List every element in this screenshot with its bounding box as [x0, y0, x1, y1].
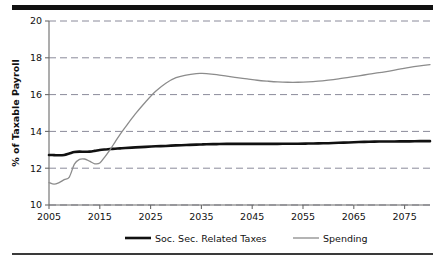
chart-legend: Soc. Sec. Related TaxesSpending: [125, 233, 368, 244]
x-tick-label: 2025: [139, 211, 163, 222]
x-tick-label: 2055: [291, 211, 315, 222]
line-chart-plot: 101214161820 200520152025203520452055206…: [0, 0, 443, 262]
x-tick-label: 2045: [240, 211, 264, 222]
y-tick-label: 18: [30, 52, 42, 63]
x-tick-label: 2005: [37, 211, 61, 222]
x-tick-label: 2065: [342, 211, 366, 222]
y-tick-label: 10: [30, 199, 42, 210]
y-axis-ticks-group: 101214161820: [30, 15, 49, 210]
y-tick-label: 16: [30, 89, 42, 100]
chart-figure: 101214161820 200520152025203520452055206…: [0, 0, 443, 262]
y-tick-label: 12: [30, 163, 42, 174]
gridlines-group: [49, 21, 430, 205]
y-tick-label: 20: [30, 15, 42, 26]
x-tick-label: 2015: [88, 211, 112, 222]
x-tick-label: 2075: [393, 211, 417, 222]
x-tick-label: 2035: [189, 211, 213, 222]
legend-label: Spending: [323, 233, 368, 244]
y-tick-label: 14: [30, 126, 42, 137]
legend-label: Soc. Sec. Related Taxes: [155, 233, 267, 244]
data-series-group: [49, 65, 430, 185]
y-axis-title: % of Taxable Payroll: [10, 59, 21, 167]
bottom-rule-divider: [12, 253, 433, 255]
axis-spines-group: [49, 21, 430, 205]
series-line-soc-sec-related-taxes: [49, 141, 430, 155]
x-axis-ticks-group: 20052015202520352045205520652075: [37, 205, 417, 222]
series-line-spending: [49, 65, 430, 185]
